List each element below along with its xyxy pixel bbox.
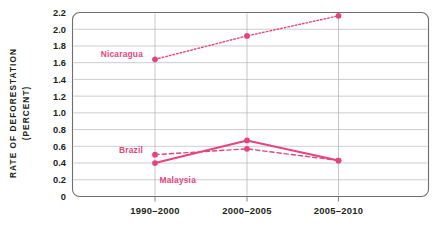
y-tick-label: 1.6 (53, 58, 66, 68)
data-point-nicaragua (152, 56, 158, 62)
series-label-brazil: Brazil (119, 145, 143, 155)
data-point-malaysia (244, 138, 250, 144)
x-axis-ticks (155, 197, 339, 202)
data-point-malaysia (336, 158, 342, 164)
y-tick-label: 0.4 (53, 158, 67, 168)
y-tick-label: 1.2 (53, 92, 66, 102)
y-tick-label: 0 (61, 192, 66, 202)
y-tick-label: 0.2 (53, 175, 66, 185)
plot-frame (73, 13, 429, 197)
y-tick-labels: 00.20.40.60.81.01.21.41.61.82.02.2 (53, 8, 67, 202)
y-tick-label: 1.0 (53, 108, 66, 118)
y-tick-label: 1.8 (53, 41, 66, 51)
series-label-nicaragua: Nicaragua (101, 49, 143, 59)
data-point-malaysia (152, 160, 158, 166)
plot-canvas: 00.20.40.60.81.01.21.41.61.82.02.2 1990–… (0, 0, 440, 226)
data-point-brazil (152, 152, 158, 158)
y-tick-label: 2.2 (53, 8, 66, 18)
y-tick-label: 2.0 (53, 25, 66, 35)
x-tick-labels: 1990–20002000–20052005–2010 (130, 205, 363, 216)
x-tick-label: 2005–2010 (314, 205, 364, 216)
data-point-brazil (244, 146, 250, 152)
x-tick-label: 1990–2000 (130, 205, 180, 216)
deforestation-line-chart: RATE OF DEFORESTATION (PERCENT) 00.20.40… (0, 0, 440, 226)
y-tick-label: 0.6 (53, 142, 66, 152)
x-tick-label: 2000–2005 (222, 205, 272, 216)
data-point-nicaragua (336, 13, 342, 19)
series-label-malaysia: Malaysia (159, 175, 196, 185)
data-point-nicaragua (244, 33, 250, 39)
y-tick-label: 0.8 (53, 125, 66, 135)
y-tick-label: 1.4 (53, 75, 67, 85)
